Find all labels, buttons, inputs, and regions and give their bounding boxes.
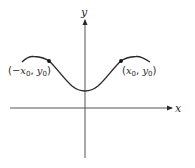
point-right-label: (x0, y0) <box>122 65 157 78</box>
point-left-label: (−x0, y0) <box>8 65 51 78</box>
point-right-marker <box>119 59 123 63</box>
point-left-marker <box>47 59 51 63</box>
x-axis-label: x <box>175 102 182 115</box>
function-graph: x y (−x0, y0) (x0, y0) <box>0 0 195 168</box>
y-axis-label: y <box>80 6 88 19</box>
